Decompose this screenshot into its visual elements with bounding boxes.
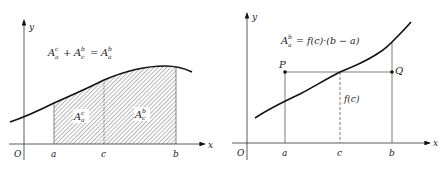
mean-value-formula: A b a = f(c)·(b − a) [280,33,360,48]
origin-label: O [14,149,22,159]
svg-text:A: A [134,109,142,120]
y-axis-label: y [28,22,35,32]
fc-label: f(c) [343,94,360,104]
svg-text:b: b [142,107,146,114]
point-p-label: P [278,59,286,70]
region-label-c-b: A b c [134,107,150,121]
svg-text:b: b [81,45,85,52]
svg-text:b: b [288,33,292,40]
point-q-label: Q [395,65,403,76]
svg-text:c: c [81,53,85,60]
tick-b: b [389,148,395,158]
tick-a: a [51,149,56,159]
svg-text:=: = [90,47,98,58]
svg-text:A: A [73,47,81,58]
point-p [283,70,287,74]
svg-text:a: a [288,41,292,48]
left-diagram: y x O a c b A c a + A b c = A b a A c a [9,20,213,160]
y-axis-label: y [251,12,258,22]
svg-text:a: a [108,53,112,60]
svg-text:= f(c)·(b − a): = f(c)·(b − a) [296,35,360,46]
point-q [390,70,394,74]
x-axis-label: x [208,140,213,150]
origin-label: O [237,148,245,158]
tick-c: c [337,148,342,158]
svg-text:A: A [73,111,81,122]
tick-b: b [173,149,179,159]
svg-text:A: A [47,47,55,58]
svg-text:a: a [55,53,59,60]
tick-c: c [101,149,106,159]
diagram-canvas: y x O a c b A c a + A b c = A b a A c a [0,0,442,170]
svg-text:c: c [55,45,59,52]
sum-formula: A c a + A b c = A b a [47,45,112,60]
svg-text:a: a [81,116,85,123]
svg-text:A: A [100,47,108,58]
region-label-a-c: A c a [73,109,89,123]
svg-text:+: + [63,47,71,58]
tick-a: a [282,148,287,158]
region-c-b [104,66,176,144]
right-diagram: P Q y x O a c b f(c) A b a = f(c)·(b − a… [232,12,438,160]
svg-text:b: b [108,45,112,52]
x-axis-label: x [433,138,438,148]
svg-text:A: A [280,35,288,46]
